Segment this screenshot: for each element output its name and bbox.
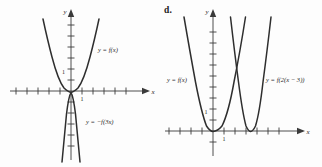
y-unit-label: 1 [205,109,208,115]
curve-label-left: y = f(x) [166,76,187,84]
part-letter-d: d. [164,5,172,15]
x-unit-label: 1 [81,96,84,102]
chart-svg-d: 1 1 x y y = f(x) y = f(2(x − 3)) [161,0,322,167]
curve-label-right: y = f(2(x − 3)) [265,76,305,84]
chart-panel-c: 1 1 x y y = f(x) y = −f(3x) [0,0,161,167]
figure-container: 1 1 x y y = f(x) y = −f(3x) [0,0,322,167]
y-axis-arrowhead [68,9,74,17]
x-axis-name: x [150,88,155,96]
y-axis-arrowhead [210,9,216,17]
y-axis-name: y [62,8,67,16]
curve-label-lower: y = −f(3x) [85,118,114,126]
curve-label-upper: y = f(x) [97,46,118,54]
chart-svg-c: 1 1 x y y = f(x) y = −f(3x) [0,0,161,167]
curve-f-of-2x-minus-3 [231,17,272,132]
x-axis-name: x [305,128,310,136]
x-axis-arrowhead [142,88,150,94]
x-axis-arrowhead [297,128,305,134]
curve-f-of-x [184,17,246,132]
y-axis-name: y [204,8,209,16]
x-unit-label: 1 [223,136,226,142]
y-unit-label: 1 [62,69,65,75]
chart-panel-d: 1 1 x y y = f(x) y = f(2(x − 3)) d. [161,0,322,167]
